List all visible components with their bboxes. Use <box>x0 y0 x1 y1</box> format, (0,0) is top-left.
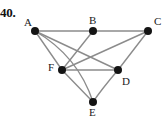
graph-edge-fe <box>62 70 93 102</box>
graph-vertex-a <box>31 27 39 35</box>
vertex-label-b: B <box>89 15 96 26</box>
vertex-label-c: C <box>154 16 161 27</box>
graph-vertex-c <box>144 27 152 35</box>
graph-edge-cd <box>118 31 148 70</box>
graph-figure: 40. ABCDEF <box>0 0 166 119</box>
graph-vertex-e <box>89 98 97 106</box>
graph-vertex-b <box>89 27 97 35</box>
vertex-label-f: F <box>48 62 54 73</box>
graph-edge-de <box>93 70 118 102</box>
graph-vertex-d <box>114 66 122 74</box>
vertex-label-d: D <box>122 76 130 87</box>
vertex-label-a: A <box>24 17 32 28</box>
graph-vertex-f <box>58 66 66 74</box>
vertex-label-e: E <box>89 107 96 118</box>
graph-edge-bf <box>62 31 93 70</box>
